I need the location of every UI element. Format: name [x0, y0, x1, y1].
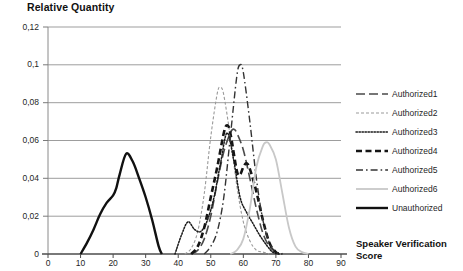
chart-legend: Authorized1Authorized2Authorized3Authori… [355, 84, 463, 217]
legend-label: Authorized2 [392, 108, 437, 118]
legend-swatch-icon [355, 88, 389, 100]
legend-item-authorized1[interactable]: Authorized1 [355, 84, 463, 103]
series-line-authorized6 [230, 142, 308, 254]
legend-label: Authorized4 [392, 146, 437, 156]
x-tick-label: 40 [167, 259, 189, 268]
gridlines [48, 27, 341, 216]
x-tick-label: 20 [102, 259, 124, 268]
y-tick-label: 0,04 [5, 174, 39, 183]
x-tick-label: 80 [297, 259, 319, 268]
legend-item-authorized4[interactable]: Authorized4 [355, 141, 463, 160]
x-tick-label: 60 [232, 259, 254, 268]
legend-label: Authorized5 [392, 165, 437, 175]
legend-swatch-icon [355, 107, 389, 119]
x-tick-label: 30 [135, 259, 157, 268]
y-tick-label: 0,02 [5, 212, 39, 221]
legend-swatch-icon [355, 126, 389, 138]
x-tick-label: 50 [200, 259, 222, 268]
x-tick-label: 90 [330, 259, 352, 268]
legend-label: Unauthorized [392, 203, 443, 213]
legend-label: Authorized6 [392, 184, 437, 194]
y-tick-label: 0,1 [5, 60, 39, 69]
legend-swatch-icon [355, 202, 389, 214]
series-line-unauthorized [81, 153, 162, 254]
legend-item-authorized5[interactable]: Authorized5 [355, 160, 463, 179]
y-tick-label: 0 [5, 250, 39, 259]
legend-swatch-icon [355, 145, 389, 157]
x-tick-label: 0 [37, 259, 59, 268]
y-axis-ticks [43, 27, 48, 254]
legend-item-unauthorized[interactable]: Unauthorized [355, 198, 463, 217]
y-tick-label: 0,06 [5, 136, 39, 145]
legend-label: Authorized3 [392, 127, 437, 137]
legend-item-authorized2[interactable]: Authorized2 [355, 103, 463, 122]
series-line-authorized3 [175, 133, 279, 254]
x-tick-label: 70 [265, 259, 287, 268]
series-line-authorized5 [204, 64, 282, 254]
legend-swatch-icon [355, 183, 389, 195]
x-tick-label: 10 [70, 259, 92, 268]
legend-item-authorized6[interactable]: Authorized6 [355, 179, 463, 198]
legend-label: Authorized1 [392, 89, 437, 99]
y-tick-label: 0,12 [5, 23, 39, 32]
legend-item-authorized3[interactable]: Authorized3 [355, 122, 463, 141]
chart-container: Relative Quantity Speaker Verification S… [0, 0, 463, 271]
legend-swatch-icon [355, 164, 389, 176]
series-lines [81, 64, 309, 254]
y-tick-label: 0,08 [5, 98, 39, 107]
